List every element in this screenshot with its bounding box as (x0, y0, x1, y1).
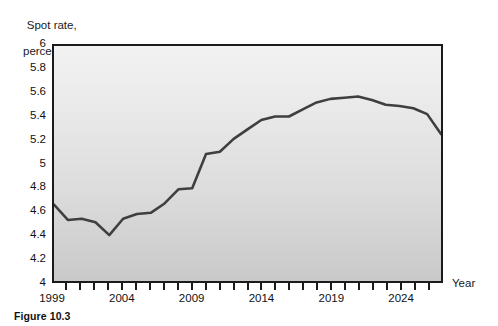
y-tick-label: 5.4 (12, 110, 46, 122)
y-tick-label: 4 (12, 277, 46, 289)
y-tick-label: 4.6 (12, 205, 46, 217)
spot-rate-polyline (54, 97, 441, 236)
x-tick-mark (428, 283, 430, 290)
plot-area (52, 44, 443, 283)
x-tick-mark (121, 283, 123, 290)
y-tick-label: 5 (12, 158, 46, 170)
x-tick-mark (316, 283, 318, 290)
x-tick-label: 2019 (318, 292, 344, 304)
x-tick-mark (302, 283, 304, 290)
x-tick-mark (219, 283, 221, 290)
x-tick-mark (233, 283, 235, 290)
x-tick-label: 2004 (109, 292, 135, 304)
x-tick-mark (288, 283, 290, 290)
x-tick-label: 2014 (249, 292, 275, 304)
x-tick-mark (79, 283, 81, 290)
y-tick-label: 4.2 (12, 253, 46, 265)
x-tick-mark (247, 283, 249, 290)
spot-rate-line-series (54, 46, 441, 281)
x-tick-mark (107, 283, 109, 290)
x-tick-mark (386, 283, 388, 290)
x-tick-mark (149, 283, 151, 290)
x-tick-mark (358, 283, 360, 290)
y-tick-label: 5.8 (12, 62, 46, 74)
x-tick-mark (205, 283, 207, 290)
x-axis-title: Year (452, 277, 475, 290)
x-tick-mark (93, 283, 95, 290)
x-tick-mark (163, 283, 165, 290)
x-tick-mark (344, 283, 346, 290)
figure-caption: Figure 10.3 (14, 310, 71, 322)
x-tick-mark (330, 283, 332, 290)
y-tick-label: 5.2 (12, 134, 46, 146)
x-tick-mark (191, 283, 193, 290)
y-tick-label: 4.8 (12, 181, 46, 193)
x-tick-mark (372, 283, 374, 290)
x-tick-label: 2009 (179, 292, 205, 304)
x-tick-mark (274, 283, 276, 290)
y-tick-label: 4.4 (12, 229, 46, 241)
figure-container: Spot rate, percent Year 44.24.44.64.855.… (0, 0, 498, 326)
x-tick-label: 1999 (39, 292, 65, 304)
x-tick-mark (400, 283, 402, 290)
x-tick-mark (260, 283, 262, 290)
x-tick-mark (135, 283, 137, 290)
x-tick-mark (65, 283, 67, 290)
x-tick-mark (414, 283, 416, 290)
y-tick-label: 6 (12, 38, 46, 50)
x-tick-label: 2024 (388, 292, 414, 304)
y-tick-label: 5.6 (12, 86, 46, 98)
x-tick-mark (177, 283, 179, 290)
y-axis-tick-labels: 44.24.44.64.855.25.45.65.86 (8, 0, 46, 326)
